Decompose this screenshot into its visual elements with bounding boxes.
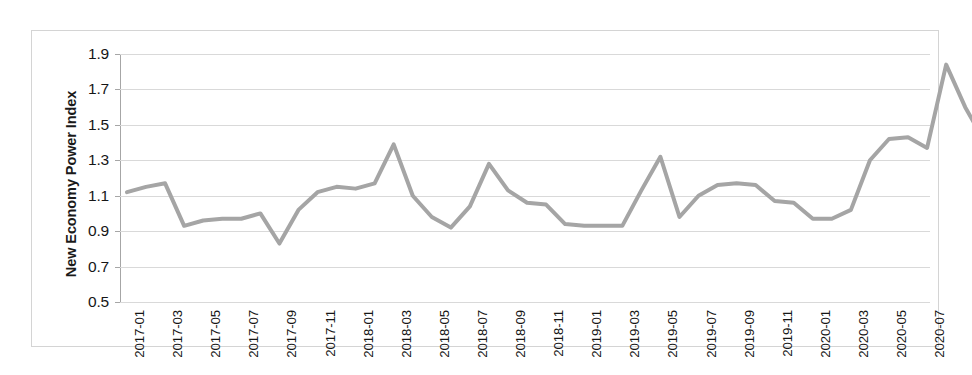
x-axis-tick-label: 2018-03 [399, 310, 414, 358]
y-axis-tick-label: 1.9 [46, 45, 118, 63]
x-axis-tick-label: 2018-05 [437, 310, 452, 358]
x-axis-tick-label: 2020-01 [818, 310, 833, 358]
series-line-new-economy-power-index [127, 65, 972, 244]
x-axis-tick-label: 2017-09 [284, 310, 299, 358]
series-line-chart [120, 54, 930, 302]
x-axis-tick-label: 2019-11 [780, 310, 795, 357]
x-axis-tick-label: 2020-07 [932, 310, 947, 358]
gridline [120, 302, 930, 303]
x-axis-tick-label: 2017-07 [246, 310, 261, 358]
x-axis-tick-label: 2019-05 [665, 310, 680, 358]
x-axis-tick-label: 2018-09 [513, 310, 528, 358]
y-axis-tick-label: 1.5 [46, 116, 118, 134]
y-axis-tick-label: 1.3 [46, 151, 118, 169]
x-axis-tick-label: 2017-05 [208, 310, 223, 358]
plot-area [120, 54, 930, 302]
x-axis-tick-label: 2020-05 [894, 310, 909, 358]
x-axis-tick-label: 2018-07 [475, 310, 490, 358]
x-axis-tick-label: 2019-07 [704, 310, 719, 358]
chart-frame: New Economy Power Index 1.91.71.51.31.10… [31, 30, 939, 347]
y-axis-tick-label: 0.5 [46, 293, 118, 311]
x-axis-tick-label: 2018-11 [551, 310, 566, 357]
y-axis-tick-label: 1.1 [46, 187, 118, 205]
y-axis-tick-label: 0.9 [46, 222, 118, 240]
x-axis-tick-label: 2017-03 [170, 310, 185, 358]
x-axis-tick-label: 2018-01 [361, 310, 376, 358]
x-axis-tick-label: 2019-01 [589, 310, 604, 358]
x-axis-tick-label: 2017-11 [323, 310, 338, 357]
y-axis-tick-label: 0.7 [46, 258, 118, 276]
x-axis-tick-label: 2017-01 [132, 310, 147, 358]
x-axis-tick-label: 2019-09 [742, 310, 757, 358]
x-axis-tick-label: 2020-03 [856, 310, 871, 358]
x-axis-tick-label: 2019-03 [627, 310, 642, 358]
y-axis-tick-label: 1.7 [46, 80, 118, 98]
